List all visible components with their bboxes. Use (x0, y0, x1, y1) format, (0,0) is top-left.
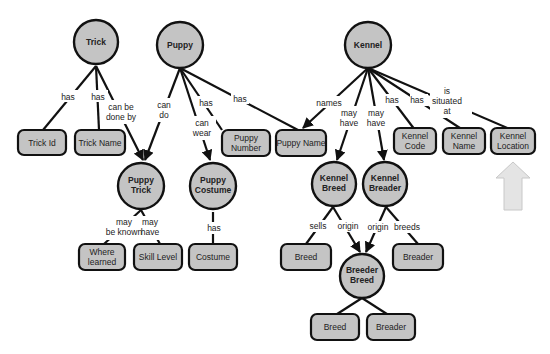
edge-label: is (444, 86, 450, 96)
edge-label: has (385, 95, 399, 105)
svg-text:Puppy: Puppy (200, 175, 226, 185)
svg-text:Where: Where (89, 247, 114, 257)
entity-puppy-costume[interactable]: Puppy Costume (190, 163, 236, 209)
svg-text:Code: Code (405, 141, 426, 151)
svg-text:Kennel: Kennel (371, 173, 399, 183)
edge-label: sells (309, 221, 326, 231)
entity-puppy-trick[interactable]: Puppy Trick (118, 163, 164, 209)
svg-text:Skill Level: Skill Level (139, 252, 177, 262)
entity-kennel[interactable]: Kennel (345, 22, 391, 68)
attribute-kennel-name[interactable]: Kennel Name (443, 128, 485, 154)
svg-text:Kennel: Kennel (354, 40, 382, 50)
svg-text:Name: Name (453, 141, 476, 151)
edge-label: situated (432, 96, 462, 106)
edge-label: have (367, 118, 386, 128)
attribute-puppy-name[interactable]: Puppy Name (276, 130, 326, 156)
attribute-kennel-code[interactable]: Kennel Code (394, 128, 436, 154)
entity-trick[interactable]: Trick (74, 20, 118, 64)
edge-label: do (159, 110, 169, 120)
edge-label: has (233, 94, 247, 104)
attribute-kennel-location[interactable]: Kennel Location (491, 128, 535, 154)
attribute-breed-2[interactable]: Breed (311, 314, 359, 340)
entity-breeder-breed[interactable]: Breeder Breed (340, 254, 384, 298)
svg-text:Kennel: Kennel (451, 131, 478, 141)
edge-label: may (142, 217, 159, 227)
up-arrow-icon (496, 162, 530, 210)
edge-label: can be (108, 102, 134, 112)
attribute-skill-level[interactable]: Skill Level (134, 244, 182, 270)
svg-text:Location: Location (497, 141, 529, 151)
svg-text:Breed: Breed (324, 322, 347, 332)
svg-text:Puppy: Puppy (167, 40, 193, 50)
attribute-costume[interactable]: Costume (189, 244, 237, 270)
edge-label: origin (368, 222, 389, 232)
edge-label: done by (106, 112, 137, 122)
attribute-breed[interactable]: Breed (281, 244, 331, 270)
svg-text:Trick: Trick (131, 185, 151, 195)
edge-label: have (141, 227, 160, 237)
diagram-canvas: has has can be done by can do can wear h… (0, 0, 550, 354)
edge-label: names (316, 98, 342, 108)
edge-label: have (340, 118, 359, 128)
svg-text:Trick Id: Trick Id (28, 138, 56, 148)
attribute-breader[interactable]: Breader (393, 244, 443, 270)
edge-label: breeds (394, 222, 420, 232)
attribute-trick-id[interactable]: Trick Id (18, 130, 66, 155)
svg-text:Breader: Breader (376, 322, 406, 332)
svg-text:Breader: Breader (403, 252, 433, 262)
edge-label: has (61, 92, 75, 102)
svg-text:Kennel: Kennel (402, 131, 429, 141)
svg-text:Number: Number (231, 143, 261, 153)
edge-label: wear (192, 128, 212, 138)
svg-text:Trick Name: Trick Name (78, 138, 121, 148)
entity-kennel-breed[interactable]: Kennel Breed (312, 162, 356, 206)
svg-text:Kennel: Kennel (320, 173, 348, 183)
svg-text:Kennel: Kennel (500, 131, 527, 141)
svg-text:Puppy: Puppy (234, 133, 259, 143)
entity-puppy[interactable]: Puppy (157, 22, 203, 68)
svg-text:Breed: Breed (295, 252, 318, 262)
edge-label: has (207, 223, 221, 233)
svg-text:Trick: Trick (86, 37, 106, 47)
svg-text:Breeder: Breeder (346, 265, 379, 275)
svg-text:Costume: Costume (195, 185, 232, 195)
edge-label: has (410, 95, 424, 105)
svg-text:Puppy: Puppy (128, 175, 154, 185)
edge-label: be known (106, 227, 143, 237)
svg-text:Costume: Costume (196, 252, 230, 262)
edge-labels: has has can be done by can do can wear h… (58, 84, 472, 240)
attribute-puppy-number[interactable]: Puppy Number (222, 130, 270, 156)
edge-label: has (199, 98, 213, 108)
svg-text:Breader: Breader (369, 183, 402, 193)
entity-kennel-breader[interactable]: Kennel Breader (363, 162, 407, 206)
svg-text:Puppy Name: Puppy Name (276, 138, 325, 148)
svg-text:Breed: Breed (322, 183, 346, 193)
edge-label: may (341, 108, 358, 118)
edge-label: can (157, 100, 171, 110)
edge-label: can (195, 118, 209, 128)
edge-label: origin (338, 221, 359, 231)
edge-label: may (368, 108, 385, 118)
svg-text:Breed: Breed (350, 275, 374, 285)
edge-label: at (443, 106, 451, 116)
attribute-breader-2[interactable]: Breader (367, 314, 415, 340)
attribute-trick-name[interactable]: Trick Name (75, 130, 125, 155)
edge-label: may (116, 217, 133, 227)
edge-label: has (91, 92, 105, 102)
attribute-where-learned[interactable]: Where learned (79, 244, 125, 270)
svg-text:learned: learned (88, 257, 117, 267)
